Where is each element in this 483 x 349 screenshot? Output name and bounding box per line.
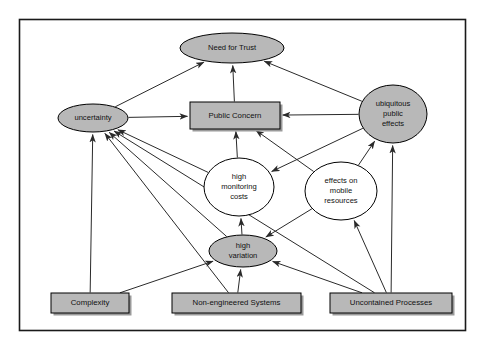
edge-high-monitoring-costs-to-uncertainty (118, 130, 208, 173)
node-label: ubiquitous (376, 99, 411, 108)
edge-non-engineered-systems-to-uncertainty (105, 133, 229, 292)
node-label: high (232, 172, 246, 181)
edge-uncontained-processes-to-ubiquitous-public-effects (391, 146, 393, 293)
node-high-monitoring-costs[interactable]: highmonitoringcosts (204, 158, 274, 216)
edge-ubiquitous-public-effects-to-need-for-trust (264, 61, 362, 101)
node-label: monitoring (221, 182, 256, 191)
edge-uncontained-processes-to-effects-on-mobile-resources (354, 221, 386, 293)
edge-effects-on-mobile-resources-to-ubiquitous-public-effects (358, 141, 374, 165)
node-label: high (236, 241, 250, 250)
node-uncontained-processes[interactable]: Uncontained Processes (330, 293, 455, 316)
edge-uncertainty-to-public-concern (128, 116, 187, 117)
diagram-canvas: Need for TrustuncertaintyPublic Concernu… (0, 0, 483, 349)
node-label: Uncontained Processes (350, 298, 432, 307)
nodes-layer: Need for TrustuncertaintyPublic Concernu… (51, 33, 455, 316)
node-label: effects on (325, 176, 358, 185)
node-label: resources (324, 196, 358, 205)
node-label: Public Concern (209, 111, 262, 120)
edge-non-engineered-systems-to-high-variation (238, 269, 241, 292)
edge-public-concern-to-need-for-trust (233, 66, 235, 102)
node-ubiquitous-public-effects[interactable]: ubiquitouspubliceffects (359, 85, 427, 143)
edge-high-monitoring-costs-to-public-concern (236, 132, 237, 158)
node-need-for-trust[interactable]: Need for Trust (180, 33, 284, 63)
node-label: Need for Trust (208, 43, 257, 52)
node-label: uncertainty (74, 113, 111, 122)
node-label: Complexity (71, 298, 110, 307)
node-label: variation (229, 251, 258, 260)
edge-high-variation-to-high-monitoring-costs (241, 218, 242, 234)
edge-effects-on-mobile-resources-to-high-variation (266, 209, 312, 237)
node-label: effects (382, 119, 404, 128)
node-non-engineered-systems[interactable]: Non-engineered Systems (172, 293, 304, 316)
edge-complexity-to-uncertainty (90, 135, 93, 293)
edge-ubiquitous-public-effects-to-public-concern (283, 114, 359, 115)
edge-complexity-to-high-variation (120, 261, 213, 293)
node-high-variation[interactable]: highvariation (209, 235, 277, 267)
edge-uncertainty-to-need-for-trust (115, 62, 204, 107)
node-label: costs (230, 192, 248, 201)
node-uncertainty[interactable]: uncertainty (58, 104, 128, 132)
causal-diagram: Need for TrustuncertaintyPublic Concernu… (0, 0, 483, 349)
node-complexity[interactable]: Complexity (51, 293, 132, 316)
node-public-concern[interactable]: Public Concern (190, 102, 283, 132)
node-label: mobile (330, 186, 352, 195)
node-label: public (383, 109, 403, 118)
node-label: Non-engineered Systems (193, 298, 281, 307)
node-effects-on-mobile-resources[interactable]: effects onmobileresources (305, 162, 377, 220)
